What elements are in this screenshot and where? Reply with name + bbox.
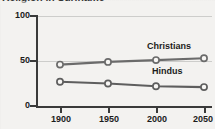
data-point [201,55,207,61]
chart-figure: Religion in Suriname 100 50 0 1900 1950 … [0,0,215,129]
data-point [57,62,63,68]
series-line-christians [60,58,204,64]
data-point [153,83,159,89]
data-point [105,80,111,86]
data-point [153,57,159,63]
series-label-christians: Christians [147,41,191,51]
series-label-hindus: Hindus [152,66,183,76]
data-point [105,59,111,65]
data-point [201,84,207,90]
data-point [57,79,63,85]
series-hindus [57,79,207,91]
series-christians [57,55,207,67]
series-canvas [0,0,215,129]
series-line-hindus [60,82,204,87]
